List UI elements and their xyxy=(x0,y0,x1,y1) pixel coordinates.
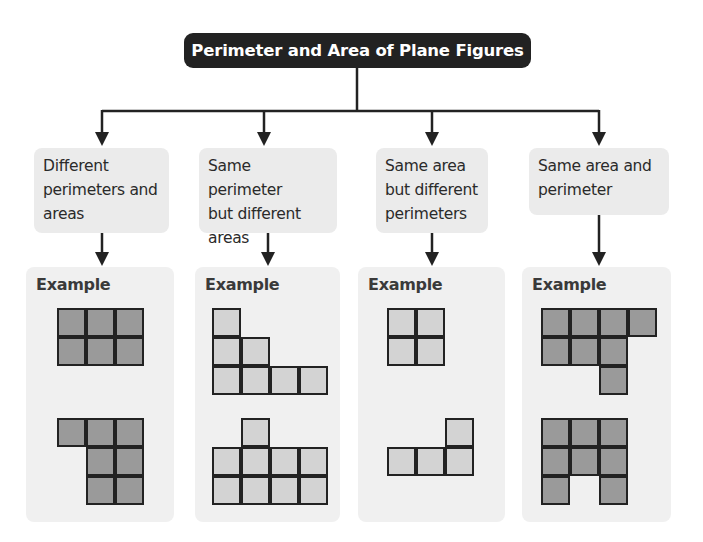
square-unit xyxy=(299,476,328,505)
square-unit xyxy=(241,366,270,395)
category-line: perimeters xyxy=(385,202,479,226)
square-unit xyxy=(86,308,115,337)
arrowhead-icon xyxy=(95,132,109,146)
square-unit xyxy=(445,447,474,476)
category-box-different-perimeters-areas: Different perimeters and areas xyxy=(34,148,169,233)
square-unit xyxy=(241,337,270,366)
square-unit xyxy=(241,476,270,505)
example-label: Example xyxy=(36,275,110,294)
square-unit xyxy=(599,366,628,395)
square-unit xyxy=(212,308,241,337)
arrowhead-icon xyxy=(425,132,439,146)
square-unit xyxy=(212,366,241,395)
example-label: Example xyxy=(368,275,442,294)
square-unit xyxy=(115,337,144,366)
square-unit xyxy=(212,476,241,505)
arrowhead-icon xyxy=(592,132,606,146)
square-unit xyxy=(416,337,445,366)
square-unit xyxy=(299,447,328,476)
arrowhead-icon xyxy=(95,252,109,266)
square-unit xyxy=(86,447,115,476)
square-unit xyxy=(115,476,144,505)
category-line: Same area and xyxy=(538,154,660,178)
category-box-same-area-and-perimeter: Same area and perimeter xyxy=(529,148,669,215)
category-line: perimeter xyxy=(538,178,660,202)
category-line: Different xyxy=(43,154,160,178)
arrowhead-icon xyxy=(257,132,271,146)
square-unit xyxy=(241,447,270,476)
square-unit xyxy=(86,337,115,366)
category-line: Same area xyxy=(385,154,479,178)
example-panel-2: Example xyxy=(195,267,340,522)
square-unit xyxy=(570,337,599,366)
square-unit xyxy=(212,447,241,476)
arrowhead-icon xyxy=(592,252,606,266)
square-unit xyxy=(57,308,86,337)
arrowhead-icon xyxy=(425,252,439,266)
square-unit xyxy=(599,447,628,476)
square-unit xyxy=(541,337,570,366)
category-line: but different xyxy=(385,178,479,202)
square-unit xyxy=(299,366,328,395)
example-panel-3: Example xyxy=(358,267,505,522)
square-unit xyxy=(570,418,599,447)
square-unit xyxy=(541,476,570,505)
category-line: areas xyxy=(208,226,328,250)
square-unit xyxy=(115,308,144,337)
square-unit xyxy=(115,418,144,447)
category-line: but different xyxy=(208,202,328,226)
square-unit xyxy=(57,337,86,366)
square-unit xyxy=(416,308,445,337)
square-unit xyxy=(387,308,416,337)
square-unit xyxy=(241,418,270,447)
square-unit xyxy=(628,308,657,337)
square-unit xyxy=(86,418,115,447)
square-unit xyxy=(212,337,241,366)
square-unit xyxy=(541,418,570,447)
category-line: perimeters and xyxy=(43,178,160,202)
square-unit xyxy=(115,447,144,476)
square-unit xyxy=(599,308,628,337)
square-unit xyxy=(599,476,628,505)
square-unit xyxy=(541,447,570,476)
category-line: areas xyxy=(43,202,160,226)
category-box-same-perimeter-different-areas: Same perimeter but different areas xyxy=(199,148,337,233)
square-unit xyxy=(270,447,299,476)
square-unit xyxy=(599,418,628,447)
square-unit xyxy=(541,308,570,337)
square-unit xyxy=(387,337,416,366)
diagram-title: Perimeter and Area of Plane Figures xyxy=(184,33,531,68)
example-panel-4: Example xyxy=(522,267,671,522)
square-unit xyxy=(387,447,416,476)
square-unit xyxy=(86,476,115,505)
category-line: Same perimeter xyxy=(208,154,328,202)
square-unit xyxy=(599,337,628,366)
square-unit xyxy=(445,418,474,447)
example-label: Example xyxy=(532,275,606,294)
square-unit xyxy=(416,447,445,476)
category-box-same-area-different-perimeters: Same area but different perimeters xyxy=(376,148,488,233)
example-panel-1: Example xyxy=(26,267,174,522)
example-label: Example xyxy=(205,275,279,294)
square-unit xyxy=(570,447,599,476)
arrowhead-icon xyxy=(261,252,275,266)
square-unit xyxy=(57,418,86,447)
square-unit xyxy=(570,308,599,337)
square-unit xyxy=(270,476,299,505)
square-unit xyxy=(270,366,299,395)
